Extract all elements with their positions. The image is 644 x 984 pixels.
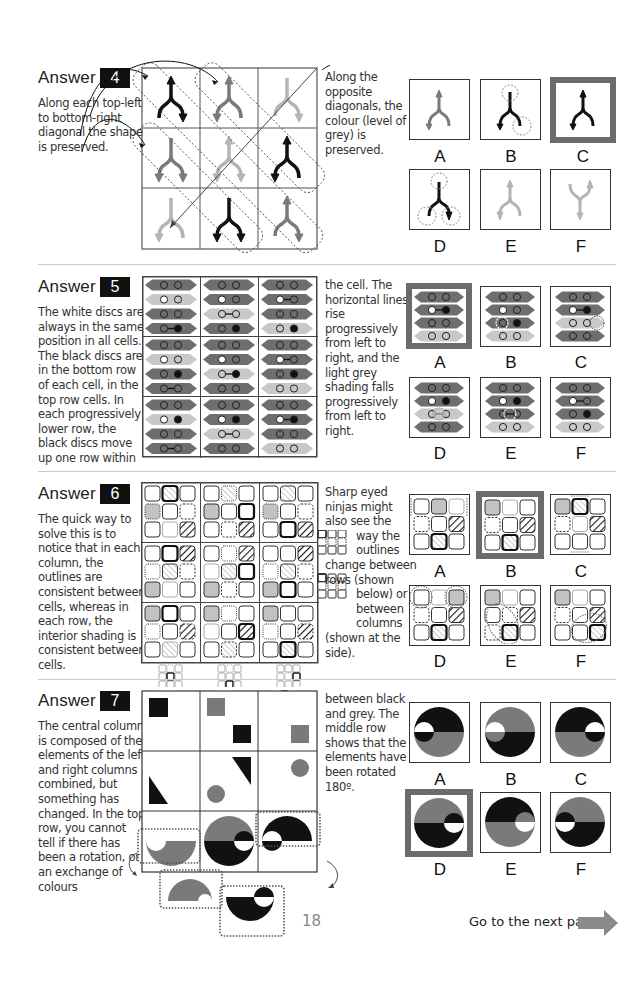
option-label: A [410,353,470,373]
answer-5-explanation-right: the cell. The horizontal lines rise prog… [325,278,408,439]
option-label: A [410,562,470,582]
answer-5-option-c[interactable] [550,286,611,347]
option-label: A [410,147,470,167]
rotated-black-shape-icon [226,887,274,921]
option-label: E [481,237,541,257]
answer-5-option-f[interactable] [550,377,611,438]
grey-circle-icon [207,785,225,803]
answer-7-option-a[interactable] [409,702,470,763]
section-divider [38,679,616,680]
answer-6-option-d[interactable] [409,585,470,646]
option-label: C [551,353,611,373]
option-label: D [410,237,470,257]
option-label: C [551,562,611,582]
option-label: C [551,770,611,790]
option-label: F [551,444,611,464]
answer-7-option-f[interactable] [550,792,611,853]
answer-7-option-b[interactable] [480,702,541,763]
fork-arrow-icon [159,76,187,122]
answer-7-option-d-selected[interactable] [405,789,473,857]
option-label: D [410,652,470,672]
answer-4-explanation-right: Along the opposite diagonals, the colour… [325,70,406,158]
answer-7-puzzle-grid [120,690,350,940]
grey-circle-icon [291,759,309,777]
answer-5-option-d[interactable] [409,377,470,438]
answer-6-option-e[interactable] [480,585,541,646]
answer-4-option-c-selected[interactable] [550,77,616,143]
answer-6-option-f[interactable] [550,585,611,646]
answer-number-badge: 5 [100,277,130,297]
section-divider [38,264,616,265]
answer-4-option-d[interactable] [409,169,470,230]
option-label: B [481,147,541,167]
page-number: 18 [302,912,321,930]
option-label: E [481,860,541,880]
answer-heading: Answer [38,691,96,711]
option-label: F [551,860,611,880]
circle-composite-icon [204,816,254,866]
option-label: B [481,770,541,790]
section-divider [38,471,616,472]
next-page-arrow-icon[interactable] [578,910,620,936]
answer-5-puzzle-grid [142,276,318,458]
answer-7-option-c[interactable] [550,702,611,763]
answer-5-explanation-left: The white discs are always in the same p… [38,305,144,466]
option-label: F [551,652,611,672]
answer-4-option-f[interactable] [550,169,611,230]
answer-5-option-e[interactable] [480,377,541,438]
answer-7-option-e[interactable] [480,792,541,853]
option-label: D [410,860,470,880]
option-label: E [481,444,541,464]
answer-4-option-a[interactable] [409,79,470,140]
grey-square-icon [207,698,225,716]
option-label: B [481,562,541,582]
answer-6-option-a[interactable] [409,494,470,555]
option-label: B [481,353,541,373]
option-label: D [410,444,470,464]
answer-4-option-b[interactable] [480,79,541,140]
rotated-grey-shape-icon [168,879,212,901]
answer-6-option-c[interactable] [550,494,611,555]
answer-6-explanation-left: The quick way to solve this is to notice… [38,512,145,673]
option-label: F [551,237,611,257]
answer-4-puzzle-grid [0,40,330,270]
answer-7-explanation-right: between black and grey. The middle row s… [325,692,406,794]
answer-6-puzzle-grid [141,482,321,687]
answer-4-option-e[interactable] [480,169,541,230]
answer-heading: Answer [38,484,96,504]
answer-number-badge: 6 [100,484,130,504]
option-label: C [553,147,613,167]
black-square-icon [233,725,251,743]
option-label: A [410,770,470,790]
answer-5-option-b[interactable] [480,286,541,347]
answer-6-explanation-right: Sharp eyed ninjas might also see the way… [325,485,417,660]
answer-6-option-b-selected[interactable] [476,491,544,559]
option-label: E [481,652,541,672]
answer-5-option-a-selected[interactable] [406,283,472,349]
grey-square-icon [291,725,309,743]
black-square-icon [149,698,168,717]
answer-heading: Answer [38,277,96,297]
